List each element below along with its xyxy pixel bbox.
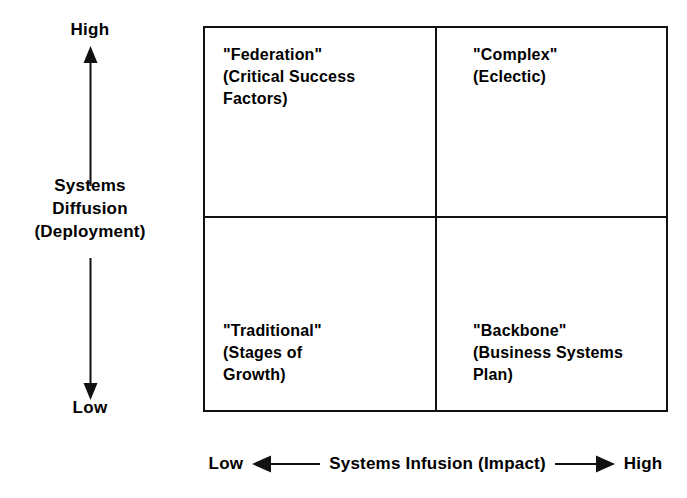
x-axis-low-label: Low — [209, 454, 244, 474]
arrow-down-icon — [83, 258, 98, 400]
arrow-up-icon — [83, 46, 98, 186]
y-axis-high-label: High — [0, 20, 180, 40]
quadrant-bottom-left-line-1: "Traditional" — [223, 320, 435, 342]
y-axis-title-line-3: (Deployment) — [0, 220, 180, 243]
y-axis-low-label: Low — [0, 398, 180, 418]
quadrant-bottom-right: "Backbone" (Business Systems Plan) — [437, 218, 667, 408]
matrix-diagram: High Systems Diffusion (Deployment) Low … — [0, 0, 687, 498]
x-axis: Low Systems Infusion (Impact) High — [203, 447, 668, 481]
matrix-box: "Federation" (Critical Success Factors) … — [203, 26, 668, 412]
quadrant-top-right-line-2: (Eclectic) — [473, 66, 667, 88]
quadrant-top-left-line-2: (Critical Success — [223, 66, 435, 88]
quadrant-bottom-right-line-1: "Backbone" — [473, 320, 667, 342]
arrow-right-icon — [555, 455, 615, 473]
x-axis-high-label: High — [624, 454, 663, 474]
quadrant-top-left: "Federation" (Critical Success Factors) — [205, 28, 435, 218]
y-axis-title-line-1: Systems — [0, 174, 180, 197]
quadrant-bottom-left-line-2: (Stages of — [223, 342, 435, 364]
x-axis-title: Systems Infusion (Impact) — [329, 454, 546, 474]
quadrant-bottom-right-line-3: Plan) — [473, 364, 667, 386]
y-axis: High Systems Diffusion (Deployment) Low — [0, 14, 180, 426]
arrow-left-icon — [252, 455, 320, 473]
quadrant-bottom-left: "Traditional" (Stages of Growth) — [205, 218, 435, 408]
quadrant-top-left-line-1: "Federation" — [223, 44, 435, 66]
quadrant-top-right: "Complex" (Eclectic) — [437, 28, 667, 218]
quadrant-bottom-left-line-3: Growth) — [223, 364, 435, 386]
y-axis-title-line-2: Diffusion — [0, 197, 180, 220]
quadrant-bottom-right-line-2: (Business Systems — [473, 342, 667, 364]
y-axis-title: Systems Diffusion (Deployment) — [0, 174, 180, 243]
quadrant-top-right-line-1: "Complex" — [473, 44, 667, 66]
quadrant-top-left-line-3: Factors) — [223, 88, 435, 110]
